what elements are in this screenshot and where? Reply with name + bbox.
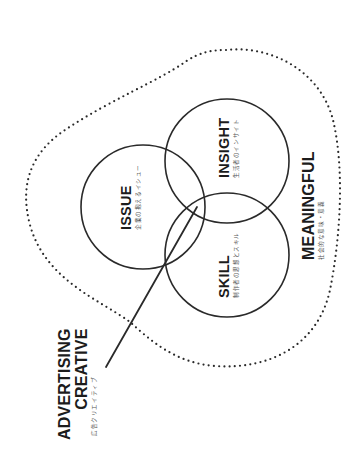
skill-label: SKILL 制作者の思想とスキル: [216, 232, 240, 298]
insight-title: INSIGHT: [216, 118, 232, 178]
meaningful-label: MEANINGFUL 社会的な意味・意義: [301, 151, 325, 260]
advertising-creative-label: ADVERTISING CREATIVE 広告クリエイティブ: [57, 328, 98, 440]
skill-title: SKILL: [216, 255, 232, 298]
insight-label: INSIGHT 生活者のインサイト: [216, 118, 240, 178]
pointer-line: [106, 207, 197, 367]
meaningful-subtitle: 社会的な意味・意義: [319, 151, 325, 260]
meaningful-dotted-boundary: [26, 49, 340, 366]
advertising-creative-subtitle: 広告クリエイティブ: [92, 328, 98, 436]
issue-label: ISSUE 企業の抱えるイシュー: [118, 164, 142, 230]
issue-subtitle: 企業の抱えるイシュー: [136, 164, 142, 230]
advertising-title: ADVERTISING: [57, 328, 73, 440]
meaningful-title: MEANINGFUL: [300, 151, 317, 260]
insight-subtitle: 生活者のインサイト: [234, 118, 240, 178]
issue-title: ISSUE: [118, 185, 134, 230]
creative-title: CREATIVE: [74, 328, 90, 440]
skill-subtitle: 制作者の思想とスキル: [234, 232, 240, 298]
